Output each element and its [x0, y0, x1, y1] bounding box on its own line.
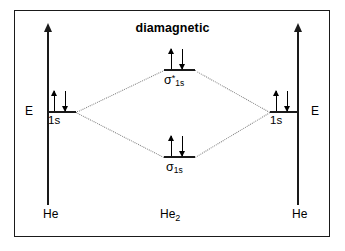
spin-up-arrow-icon — [171, 49, 172, 69]
electron-pair-bonding — [167, 136, 189, 156]
species-label-right-atom: He — [292, 207, 307, 221]
mo-diagram-canvas: diamagnetic E E 1s 1s σ*1s σ1s — [0, 0, 345, 251]
spin-up-arrow-icon — [54, 91, 55, 111]
orbital-label-antibonding: σ*1s — [164, 73, 184, 87]
energy-axis-right-arrowhead-icon — [294, 23, 302, 32]
sigma-glyph: σ — [166, 160, 174, 174]
energy-axis-label-right: E — [311, 104, 319, 118]
spin-down-arrow-icon — [287, 91, 288, 111]
species-molecule-text: He — [160, 207, 175, 221]
spin-down-arrow-icon — [65, 91, 66, 111]
spin-up-arrow-icon — [171, 136, 172, 156]
electron-pair-antibonding — [167, 49, 189, 69]
species-label-left-atom: He — [43, 207, 58, 221]
antibonding-subscript: 1s — [175, 78, 184, 88]
diagram-frame — [14, 10, 330, 237]
sigma-glyph: σ — [164, 73, 172, 87]
energy-axis-right-shaft — [297, 31, 299, 205]
electron-pair-ao-left — [50, 91, 72, 111]
spin-up-arrow-icon — [276, 91, 277, 111]
species-right-text: He — [292, 207, 307, 221]
spin-down-arrow-icon — [182, 136, 183, 156]
electron-pair-ao-right — [272, 91, 294, 111]
species-left-text: He — [43, 207, 58, 221]
orbital-label-ao-right: 1s — [270, 114, 282, 126]
species-label-molecule: He2 — [160, 207, 180, 221]
orbital-label-ao-left: 1s — [48, 114, 60, 126]
orbital-label-bonding: σ1s — [166, 160, 183, 174]
bonding-subscript: 1s — [174, 165, 183, 175]
orbital-label-ao-left-text: 1s — [48, 114, 60, 126]
orbital-label-ao-right-text: 1s — [270, 114, 282, 126]
energy-axis-left-arrowhead-icon — [44, 23, 52, 32]
spin-down-arrow-icon — [182, 49, 183, 69]
energy-axis-label-left: E — [25, 104, 33, 118]
species-molecule-subscript: 2 — [175, 213, 180, 223]
